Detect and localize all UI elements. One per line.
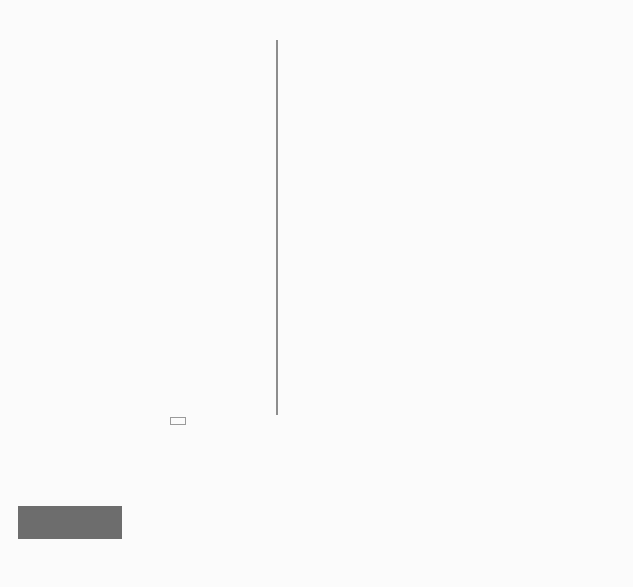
figure-caption (18, 506, 615, 542)
figure-page (0, 0, 633, 587)
category-axis (276, 40, 278, 415)
figure-number-tag (18, 506, 122, 539)
chart-panel (18, 18, 615, 488)
bar-chart-plot (58, 40, 598, 415)
chart-legend (170, 417, 186, 425)
